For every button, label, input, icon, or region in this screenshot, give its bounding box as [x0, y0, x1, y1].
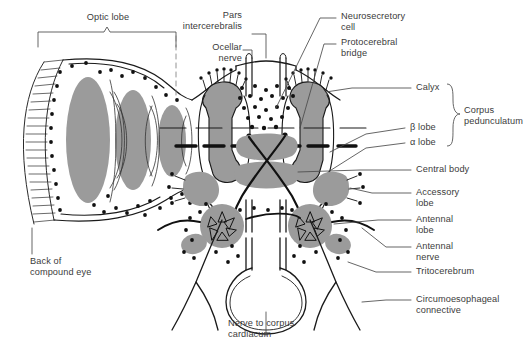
leader-antennal-nerve [362, 228, 411, 247]
label-back-of-compound-eye: Back of compound eye [30, 256, 130, 277]
label-circumoesophageal-connective: Circumoesophageal connective [416, 294, 530, 315]
leader-calyx [326, 88, 411, 92]
label-accessory-lobe: Accessory lobe [416, 187, 496, 208]
label-optic-lobe: Optic lobe [64, 12, 152, 23]
label-calyx: Calyx [416, 82, 476, 93]
leader-accessory-lobe [350, 188, 411, 193]
tritocerebrum-outline [172, 200, 360, 330]
label-neurosecretory-cell: Neurosecretory cell [341, 11, 461, 32]
label-nerve-to-corpus-cardiacum: Nerve to corpus cardiacum [228, 318, 338, 339]
label-antennal-nerve: Antennal nerve [416, 241, 496, 262]
label-tritocerebrum: Tritocerebrum [416, 266, 516, 277]
optic-neuropil-masses [66, 77, 186, 203]
leader-tritocerebrum [348, 262, 411, 272]
label-ocellar-nerve: Ocellar nerve [158, 42, 242, 63]
antennal-nerves [158, 214, 374, 230]
brain-diagram-figure: Optic lobe Pars intercerebralis Ocellar … [0, 0, 532, 343]
leader-beta-lobe [330, 128, 405, 152]
label-central-body: Central body [416, 164, 516, 175]
leader-pars-intercerebralis [252, 34, 266, 58]
label-pars-intercerebralis: Pars intercerebralis [150, 10, 242, 31]
label-beta-lobe: β lobe [410, 122, 470, 133]
label-protocerebral-bridge: Protocerebral bridge [341, 37, 451, 58]
label-corpus-pedunculatum: Corpus pedunculatum [464, 105, 532, 126]
label-antennal-lobe: Antennal lobe [416, 214, 496, 235]
label-alpha-lobe: α lobe [410, 137, 470, 148]
leader-circumoesophageal [362, 300, 411, 302]
